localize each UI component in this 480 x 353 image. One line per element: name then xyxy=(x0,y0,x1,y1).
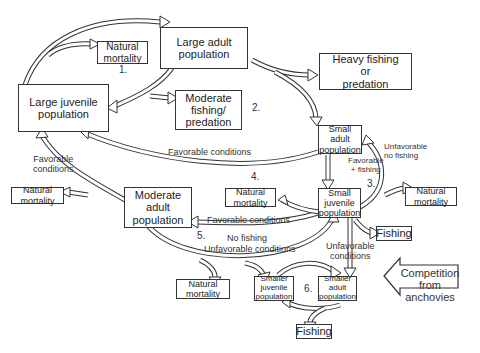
large-juvenile-population-box: Large juvenile population xyxy=(18,84,109,132)
step-number-4: 4. xyxy=(251,171,259,182)
favorable-conditions-top-label: Favorable conditions xyxy=(168,148,251,158)
step-number-3: 3. xyxy=(367,178,375,189)
favorable-conditions-mid-label: Favorable conditions xyxy=(207,216,290,226)
unfavorable-conditions-right-label: Unfavorable conditions xyxy=(326,242,375,262)
favorable-conditions-left-label: Favorable conditions xyxy=(33,155,74,175)
moderate-fishing-box: Moderate fishing/ predation xyxy=(175,90,242,130)
smaller-adult-population-box: Smaller adult population xyxy=(318,276,357,301)
unfavorable-no-fishing-label: Unfavorable no fishing xyxy=(384,143,427,161)
natural-mortality-box-bottom: Natural mortality xyxy=(176,279,230,299)
step-number-2: 2. xyxy=(252,102,260,113)
heavy-fishing-box: Heavy fishing or predation xyxy=(319,53,412,90)
step-number-5: 5. xyxy=(197,230,205,241)
small-juvenile-population-box: Small juvenile population xyxy=(318,188,361,218)
natural-mortality-box-right: Natural mortality xyxy=(405,187,457,206)
large-adult-population-box: Large adult population xyxy=(160,27,248,69)
smaller-juvenile-population-box: Smaller juvenile population xyxy=(254,276,294,301)
moderate-adult-population-box: Moderate adult population xyxy=(124,187,192,228)
natural-mortality-box-1: Natural mortality xyxy=(97,41,148,64)
no-fishing-label: No fishing xyxy=(227,234,267,244)
step-number-1: 1. xyxy=(119,64,127,75)
unfavorable-conditions-mid-label: Unfavorable conditions xyxy=(204,245,296,255)
step-number-6: 6. xyxy=(304,283,312,294)
favorable-plus-fishing-label: Favorable + fishing xyxy=(348,157,384,175)
competition-from-anchovies-label: Competition from anchovies xyxy=(400,267,460,303)
fishing-box-bottom: Fishing xyxy=(296,324,332,339)
small-adult-population-box: Small adult population xyxy=(318,125,362,154)
natural-mortality-box-4: Natural mortality xyxy=(225,188,276,207)
natural-mortality-box-left: Natural mortality xyxy=(11,187,64,204)
fishing-box-right: Fishing xyxy=(376,226,412,241)
